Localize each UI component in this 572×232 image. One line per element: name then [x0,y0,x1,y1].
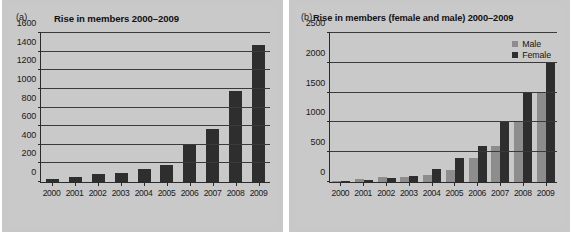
x-tick-label: 2006 [181,188,199,201]
gridline [41,162,270,163]
bar-group [87,33,110,182]
bar [138,169,151,182]
x-tick-mark [121,183,122,186]
y-tick-mark [38,51,41,52]
y-tick-mark [327,32,330,33]
x-tick-label: 2001 [354,188,372,201]
bar-female [455,158,464,182]
y-tick-mark [38,69,41,70]
gridline [330,62,557,63]
bar-male [355,179,364,182]
chart-b-title: Rise in members (female and male) 2000–2… [313,13,513,23]
bar-group [398,33,421,182]
y-tick-mark [327,92,330,93]
x-tick-mark [454,183,455,186]
gridline [41,125,270,126]
bar-male [332,181,341,182]
gridline [41,51,270,52]
y-tick-label: 2500 [306,18,325,28]
x-tick-label: 2007 [491,188,509,201]
legend-label: Female [522,50,551,60]
x-tick-cell: 2001 [352,183,375,201]
x-tick-mark [340,183,341,186]
bar [229,91,242,182]
x-tick-cell: 2006 [466,183,489,201]
x-tick-mark [190,183,191,186]
x-tick-mark [52,183,53,186]
bar-group [466,33,489,182]
bar-female [523,93,532,182]
x-tick-mark [98,183,99,186]
x-tick-label: 2005 [158,188,176,201]
y-tick-mark [327,151,330,152]
x-tick-cell: 2008 [511,183,534,201]
x-tick-label: 2009 [537,188,555,201]
bar-group [353,33,376,182]
gridline [330,121,557,122]
x-tick-label: 2003 [400,188,418,201]
gridline [41,144,270,145]
chart-a-bars [41,33,270,182]
x-tick-label: 2004 [423,188,441,201]
x-tick-mark [500,183,501,186]
x-tick-mark [236,183,237,186]
y-tick-mark [38,107,41,108]
y-tick-label: 400 [22,130,36,140]
y-tick-label: 500 [311,137,325,147]
bar [206,129,219,182]
bar-group [41,33,64,182]
x-tick-mark [259,183,260,186]
x-tick-label: 2008 [514,188,532,201]
y-tick-label: 1000 [306,107,325,117]
x-tick-label: 2000 [43,188,61,201]
bar [46,179,59,182]
y-tick-mark [38,181,41,182]
chart-b-x-axis: 2000200120022003200420052006200720082009 [329,183,557,201]
bar-group [201,33,224,182]
gridline [330,32,557,33]
x-tick-label: 2006 [468,188,486,201]
x-tick-cell: 2000 [40,183,63,201]
bar-female [341,181,350,182]
bar [92,174,105,182]
bar-male [400,177,409,182]
legend-label: Male [522,39,541,49]
chart-b-plot-area: MaleFemale 05001000150020002500 [329,33,557,183]
x-tick-label: 2000 [332,188,350,201]
bar-male [378,177,387,182]
x-tick-cell: 2002 [375,183,398,201]
chart-a-x-axis: 2000200120022003200420052006200720082009 [40,183,270,201]
y-tick-mark [38,144,41,145]
x-tick-cell: 2002 [86,183,109,201]
bar-group [64,33,87,182]
x-tick-cell: 2005 [155,183,178,201]
chart-a-plot-wrap: 02004006008001000120014001600 2000200120… [40,33,270,183]
x-tick-cell: 2004 [420,183,443,201]
bar-group [110,33,133,182]
bar-group [444,33,467,182]
y-tick-mark [38,162,41,163]
bar-female [409,176,418,182]
figure-two-bar-charts: (a) Rise in members 2000–2009 0200400600… [0,0,572,232]
y-tick-label: 0 [320,167,325,177]
x-tick-mark [386,183,387,186]
bar [160,165,173,182]
x-tick-mark [523,183,524,186]
bar-group [224,33,247,182]
bar-male [514,122,523,182]
y-tick-mark [38,32,41,33]
bar-group [330,33,353,182]
x-tick-cell: 2003 [397,183,420,201]
gridline [41,69,270,70]
bar [115,173,128,182]
bar-male [537,93,546,182]
x-tick-cell: 2008 [224,183,247,201]
x-tick-label: 2004 [135,188,153,201]
bar [183,145,196,182]
x-tick-mark [546,183,547,186]
y-tick-label: 1600 [17,18,36,28]
legend-swatch-female [512,52,518,58]
chart-panel-a: (a) Rise in members 2000–2009 0200400600… [2,0,283,232]
y-tick-label: 1400 [17,37,36,47]
gridline [41,107,270,108]
